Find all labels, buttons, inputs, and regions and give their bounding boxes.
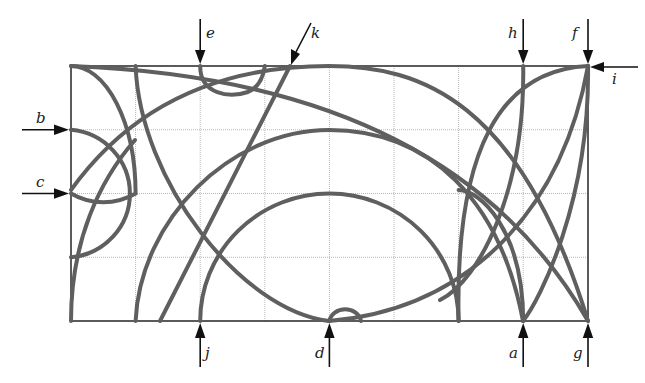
label-a: a (509, 346, 518, 361)
label-j: j (205, 346, 210, 361)
arrow-e-icon (195, 50, 205, 64)
curve-grid-diagram (0, 0, 645, 383)
arrow-i-icon (590, 62, 604, 72)
label-d: d (315, 346, 325, 361)
arrow-a-icon (518, 323, 528, 338)
arrow-f-icon (583, 50, 593, 64)
label-g: g (573, 346, 583, 361)
label-k: k (311, 26, 320, 41)
arrow-j-icon (195, 323, 205, 338)
arrow-d-icon (324, 323, 334, 338)
arrow-c-icon (54, 188, 69, 198)
arrow-b-icon (54, 125, 69, 136)
arrow-h-icon (518, 50, 528, 64)
label-h: h (508, 26, 518, 41)
label-b: b (36, 111, 46, 126)
label-c: c (36, 175, 44, 190)
arrow-g-icon (583, 323, 593, 338)
label-f: f (572, 26, 578, 41)
label-e: e (206, 26, 215, 41)
label-i: i (612, 72, 617, 87)
